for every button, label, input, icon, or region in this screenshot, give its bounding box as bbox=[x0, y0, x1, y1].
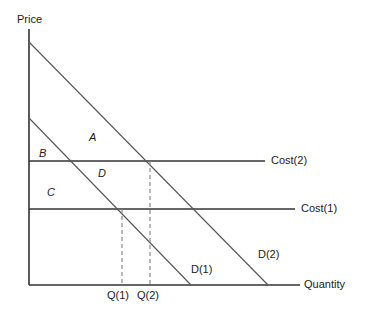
cost2-label: Cost(2) bbox=[271, 155, 307, 166]
demand-curve-d2 bbox=[29, 42, 268, 285]
x-axis-label-quantity: Quantity bbox=[304, 279, 345, 290]
q1-tick-label: Q(1) bbox=[107, 290, 129, 301]
region-label-b: B bbox=[39, 148, 46, 159]
economics-supply-demand-figure: Price Quantity Cost(2) Cost(1) D(1) D(2)… bbox=[0, 0, 367, 318]
cost1-label: Cost(1) bbox=[301, 203, 337, 214]
demand-curve-d1 bbox=[29, 118, 191, 285]
figure-canvas bbox=[0, 0, 367, 318]
y-axis-label-price: Price bbox=[17, 14, 42, 25]
region-label-d: D bbox=[98, 168, 106, 179]
q2-tick-label: Q(2) bbox=[137, 290, 159, 301]
region-label-a: A bbox=[89, 132, 96, 143]
region-label-c: C bbox=[47, 187, 55, 198]
demand-curve-d2-label: D(2) bbox=[258, 249, 279, 260]
demand-curve-d1-label: D(1) bbox=[191, 264, 212, 275]
